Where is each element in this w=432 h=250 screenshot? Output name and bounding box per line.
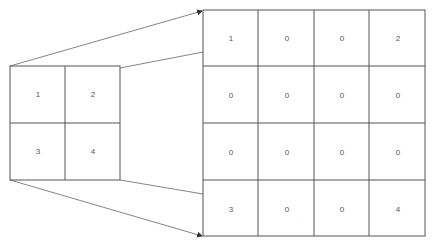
- diagram-canvas: 1 2 3 4 1 0 0 2 0 0 0 0 0 0 0 0 3 0 0 4: [0, 0, 432, 250]
- source-cell: 3: [36, 147, 41, 156]
- source-cell: 4: [91, 147, 96, 156]
- target-cell: 0: [396, 148, 401, 157]
- target-cell: 0: [285, 34, 290, 43]
- target-cell: 0: [285, 148, 290, 157]
- target-cell: 1: [229, 34, 234, 43]
- source-cell: 1: [36, 90, 41, 99]
- target-cell: 0: [340, 148, 345, 157]
- lower-connector-line: [120, 180, 203, 194]
- target-cell: 3: [229, 205, 234, 214]
- target-cell: 0: [396, 91, 401, 100]
- target-cell: 2: [396, 34, 401, 43]
- target-cell: 4: [396, 205, 401, 214]
- upper-connector-line: [120, 52, 203, 68]
- target-cell: 0: [340, 91, 345, 100]
- bottom-arrow: [10, 180, 202, 236]
- target-cell: 0: [285, 91, 290, 100]
- target-matrix: 1 0 0 2 0 0 0 0 0 0 0 0 3 0 0 4: [203, 10, 425, 236]
- source-matrix: 1 2 3 4: [10, 66, 120, 180]
- target-cell: 0: [340, 205, 345, 214]
- source-cell: 2: [91, 90, 96, 99]
- target-cell: 0: [340, 34, 345, 43]
- target-cell: 0: [285, 205, 290, 214]
- target-cell: 0: [229, 148, 234, 157]
- target-cell: 0: [229, 91, 234, 100]
